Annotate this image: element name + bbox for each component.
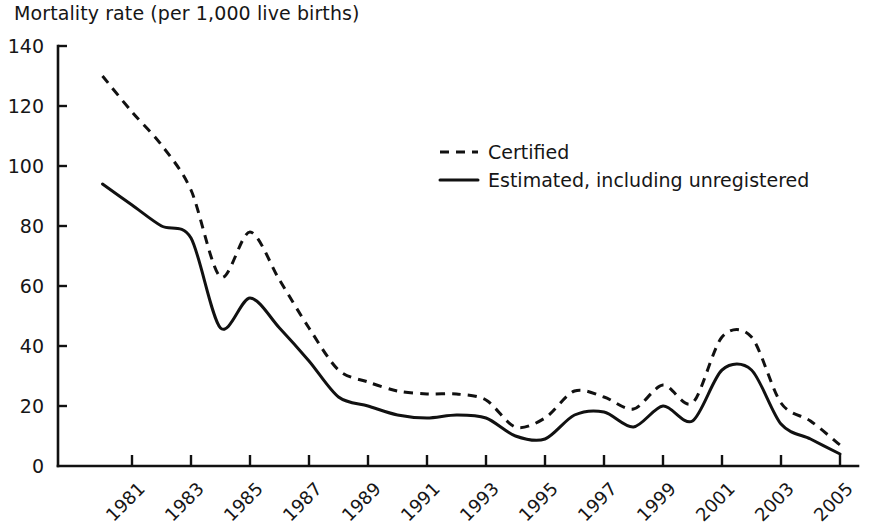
x-axis-tick-label: 1989	[338, 478, 385, 525]
x-axis-tick-marks	[132, 455, 840, 466]
series-line-estimated	[103, 184, 841, 454]
series-line-certified	[103, 76, 841, 445]
y-axis-tick-label: 140	[8, 35, 44, 57]
y-axis-tick-label: 0	[32, 455, 44, 477]
x-axis-tick-label: 1983	[161, 478, 208, 525]
x-axis-tick-label: 1993	[456, 478, 503, 525]
x-axis-tick-label: 1997	[574, 478, 621, 525]
y-axis-tick-label: 120	[8, 95, 44, 117]
line-chart-plot: 020406080100120140 198119831985198719891…	[0, 0, 869, 532]
legend-label-estimated: Estimated, including unregistered	[488, 169, 809, 191]
y-axis-tick-label: 40	[20, 335, 44, 357]
x-axis-tick-label: 1995	[515, 478, 562, 525]
x-axis-tick-label: 2003	[751, 478, 798, 525]
chart-legend: Certified Estimated, including unregiste…	[440, 141, 809, 191]
y-axis-tick-label: 100	[8, 155, 44, 177]
chart-axis-title: Mortality rate (per 1,000 live births)	[14, 2, 360, 24]
x-axis-tick-label: 1999	[633, 478, 680, 525]
x-axis-tick-label: 1981	[102, 478, 149, 525]
y-axis-tick-label: 20	[20, 395, 44, 417]
x-axis-tick-label: 2001	[692, 478, 739, 525]
x-axis-tick-labels: 1981198319851987198919911993199519971999…	[102, 478, 857, 525]
x-axis-tick-label: 2005	[810, 478, 857, 525]
x-axis-tick-label: 1987	[279, 478, 326, 525]
y-axis-tick-label: 80	[20, 215, 44, 237]
y-axis-tick-label: 60	[20, 275, 44, 297]
x-axis-tick-label: 1985	[220, 478, 267, 525]
y-axis-tick-labels: 020406080100120140	[8, 35, 44, 477]
chart-figure: Mortality rate (per 1,000 live births) 0…	[0, 0, 869, 532]
x-axis-tick-label: 1991	[397, 478, 444, 525]
legend-label-certified: Certified	[488, 141, 569, 163]
y-axis-tick-marks	[58, 46, 67, 406]
